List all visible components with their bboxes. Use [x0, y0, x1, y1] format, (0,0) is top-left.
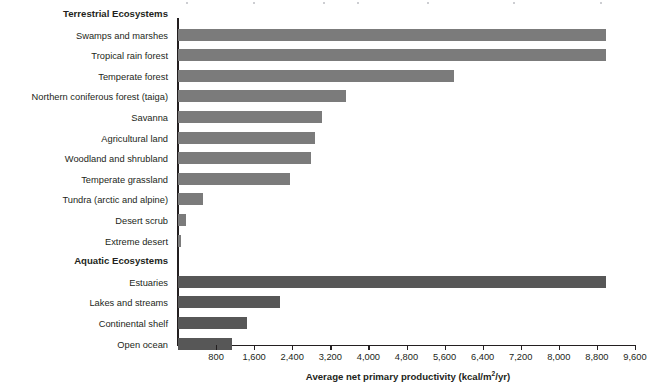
category-label-tropical-rain-forest: Tropical rain forest	[0, 51, 168, 61]
category-label-agricultural-land: Agricultural land	[0, 134, 168, 144]
x-axis-tick	[635, 345, 636, 350]
plot-area: 8001,6002,4003,2004,0004,8005,6006,4007,…	[178, 0, 638, 345]
npp-bar-chart-figure: Terrestrial EcosystemsSwamps and marshes…	[0, 0, 661, 391]
x-axis-tick	[483, 345, 484, 350]
category-label-desert-scrub: Desert scrub	[0, 216, 168, 226]
x-axis-title: Average net primary productivity (kcal/m…	[178, 371, 638, 382]
bar-tundra-arctic-and-alpine	[178, 193, 203, 205]
category-label-northern-coniferous-forest-taiga: Northern coniferous forest (taiga)	[0, 92, 168, 102]
bar-temperate-forest	[178, 70, 454, 82]
category-label-swamps-and-marshes: Swamps and marshes	[0, 31, 168, 41]
bar-savanna	[178, 111, 322, 123]
category-label-savanna: Savanna	[0, 113, 168, 123]
category-label-tundra-arctic-and-alpine: Tundra (arctic and alpine)	[0, 195, 168, 205]
x-axis-tick	[407, 345, 408, 350]
category-label-open-ocean: Open ocean	[0, 340, 168, 350]
x-axis-title-main: Average net primary productivity (kcal/m	[306, 371, 492, 382]
category-label-temperate-forest: Temperate forest	[0, 72, 168, 82]
x-axis-tick	[368, 345, 369, 350]
x-axis-tick	[521, 345, 522, 350]
category-label-estuaries: Estuaries	[0, 278, 168, 288]
bar-desert-scrub	[178, 214, 186, 226]
x-axis-tick	[597, 345, 598, 350]
x-axis-title-tail: /yr)	[495, 371, 510, 382]
x-axis-tick	[445, 345, 446, 350]
bar-estuaries	[178, 276, 606, 288]
x-axis-tick	[254, 345, 255, 350]
category-label-continental-shelf: Continental shelf	[0, 319, 168, 329]
bar-swamps-and-marshes	[178, 29, 606, 41]
category-label-lakes-and-streams: Lakes and streams	[0, 298, 168, 308]
x-axis-tick	[559, 345, 560, 350]
bar-continental-shelf	[178, 317, 247, 329]
bar-temperate-grassland	[178, 173, 290, 185]
x-axis-tick	[330, 345, 331, 350]
bar-northern-coniferous-forest-taiga	[178, 90, 346, 102]
group-header-terrestrial-ecosystems: Terrestrial Ecosystems	[0, 9, 168, 19]
category-label-column: Terrestrial EcosystemsSwamps and marshes…	[0, 0, 174, 340]
x-axis-tick-label: 9,600	[612, 352, 658, 363]
bar-lakes-and-streams	[178, 296, 280, 308]
bar-open-ocean	[178, 338, 232, 350]
x-axis-tick	[216, 345, 217, 350]
category-label-woodland-and-shrubland: Woodland and shrubland	[0, 154, 168, 164]
group-header-aquatic-ecosystems: Aquatic Ecosystems	[0, 256, 168, 266]
bar-agricultural-land	[178, 132, 315, 144]
bar-extreme-desert	[178, 235, 181, 247]
category-label-extreme-desert: Extreme desert	[0, 237, 168, 247]
bar-tropical-rain-forest	[178, 49, 606, 61]
bar-woodland-and-shrubland	[178, 152, 311, 164]
x-axis-tick	[292, 345, 293, 350]
category-label-temperate-grassland: Temperate grassland	[0, 175, 168, 185]
